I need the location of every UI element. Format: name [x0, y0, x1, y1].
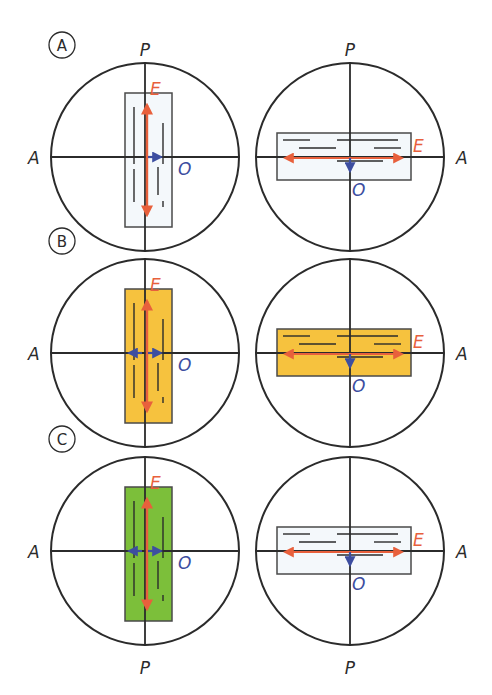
a-label: A — [455, 148, 468, 168]
svg-text:B: B — [57, 233, 67, 251]
a-label: A — [27, 542, 40, 562]
svg-text:C: C — [57, 431, 67, 449]
crystal-section — [125, 93, 172, 227]
e-label: E — [413, 332, 424, 352]
e-label: E — [150, 79, 161, 99]
p-label: P — [140, 658, 151, 678]
right-view: EOA — [256, 259, 468, 447]
a-label: A — [455, 542, 468, 562]
e-label: E — [413, 136, 424, 156]
p-label: P — [140, 40, 151, 60]
row-a: AEOAEOAPP — [27, 32, 468, 251]
crystal-section — [125, 289, 172, 423]
right-view: EOA — [256, 457, 468, 645]
o-label: O — [352, 574, 365, 594]
polarization-diagram: AEOAEOAPPBEOAEOACEOAEOAPP — [0, 0, 492, 695]
o-label: O — [352, 376, 365, 396]
e-label: E — [413, 530, 424, 550]
row-badge: C — [49, 426, 75, 452]
row-b: BEOAEOA — [27, 228, 468, 447]
crystal-section — [125, 487, 172, 621]
a-label: A — [455, 344, 468, 364]
left-view: EOA — [27, 259, 239, 447]
o-label: O — [178, 159, 191, 179]
left-view: EOA — [27, 457, 239, 645]
o-label: O — [178, 553, 191, 573]
row-badge: B — [49, 228, 75, 254]
row-badge: A — [49, 32, 75, 58]
left-view: EOA — [27, 63, 239, 251]
o-label: O — [352, 180, 365, 200]
row-c: CEOAEOAPP — [27, 426, 468, 678]
e-label: E — [150, 275, 161, 295]
o-label: O — [178, 355, 191, 375]
svg-text:A: A — [57, 37, 68, 55]
e-label: E — [150, 473, 161, 493]
a-label: A — [27, 148, 40, 168]
p-label: P — [345, 40, 356, 60]
a-label: A — [27, 344, 40, 364]
right-view: EOA — [256, 63, 468, 251]
p-label: P — [345, 658, 356, 678]
